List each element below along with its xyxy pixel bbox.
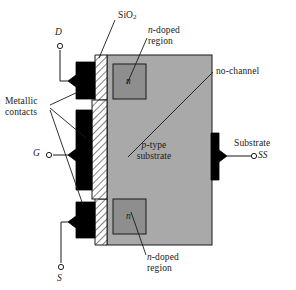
metallic-contact-drain [68,62,95,99]
leader-line-sio2 [99,20,115,58]
n-symbol-top: n [126,76,131,87]
no-channel-label: no-channel [216,66,259,77]
metallic-contacts-label-line1: Metallic [5,96,37,107]
n-doped-top-label-line2: region [148,36,180,47]
source-terminal-node [58,264,63,269]
mosfet-cross-section-figure: SiO2 n-doped region n-doped region Metal… [0,0,296,290]
n-doped-top-label-line1: -doped [153,25,180,35]
source-terminal-label: S [57,273,62,284]
gate-terminal-node [46,152,51,157]
n-doped-top-label: n-doped region [148,25,180,46]
substrate-caption-label: Substrate [234,138,270,149]
n-doped-bottom-label: n-doped region [147,252,179,273]
gate-terminal-label: G [33,148,40,159]
sio2-gate-oxide-slab [92,100,107,199]
metallic-contacts-label: Metallic contacts [5,96,37,117]
substrate-terminal-label: SS [258,150,268,161]
metallic-contact-substrate [211,133,227,180]
leader-line-metallic-drain [50,92,78,105]
drain-lead-wire [60,50,68,81]
metallic-contacts-label-line2: contacts [5,107,37,118]
metallic-contact-gate [68,110,92,190]
p-type-substrate-label-line2: substrate [126,151,182,162]
drain-terminal-node [57,43,62,48]
drain-terminal-label: D [55,27,62,38]
metallic-contact-source [68,202,95,238]
source-lead-wire [61,222,68,263]
substrate-terminal-node [251,153,256,158]
n-doped-bottom-label-line2: region [147,263,179,274]
sio2-label: SiO2 [118,10,137,22]
p-type-substrate-label: p-type substrate [126,140,182,161]
n-symbol-bottom: n [126,211,131,222]
